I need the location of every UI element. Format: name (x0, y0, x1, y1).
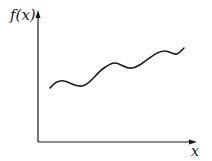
function-curve (50, 48, 184, 88)
chart-canvas (0, 0, 212, 161)
x-axis-label: x (191, 144, 199, 158)
y-axis-label: f(x) (10, 8, 36, 23)
y-axis-arrow-icon (36, 10, 41, 18)
